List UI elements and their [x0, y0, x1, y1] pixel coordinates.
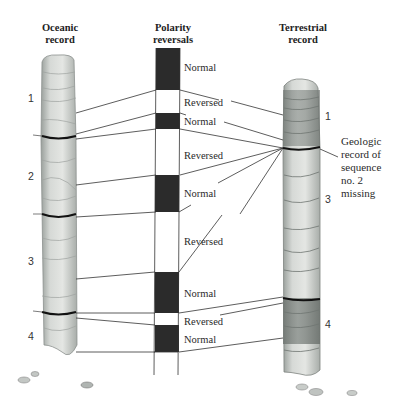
- band-label-reversed-3: Reversed: [184, 236, 223, 248]
- annotation-line: no. 2: [341, 174, 381, 187]
- terrestrial-seq-4: 4: [325, 318, 331, 330]
- band-label-normal-1: Normal: [184, 62, 216, 74]
- terrestrial-seq-3: 3: [325, 193, 331, 205]
- oceanic-seq-4: 4: [28, 330, 34, 342]
- band-label-normal-4: Normal: [184, 288, 216, 300]
- band-label-normal-3: Normal: [184, 188, 216, 200]
- band-label-normal-5: Normal: [184, 334, 216, 346]
- band-label-reversed-2: Reversed: [184, 150, 223, 162]
- band-label-reversed-1: Reversed: [184, 97, 223, 109]
- band-label-normal-2: Normal: [184, 116, 216, 128]
- terrestrial-core: [283, 79, 357, 396]
- missing-record-annotation: Geologic record of sequence no. 2 missin…: [341, 135, 381, 200]
- annotation-line: record of: [341, 148, 381, 161]
- annotation-line: sequence: [341, 161, 381, 174]
- polarity-column: [154, 48, 180, 375]
- oceanic-seq-1: 1: [28, 92, 34, 104]
- band-label-reversed-4: Reversed: [184, 316, 223, 328]
- terrestrial-seq-1: 1: [325, 110, 331, 122]
- annotation-line: missing: [341, 187, 381, 200]
- annotation-line: Geologic: [341, 135, 381, 148]
- oceanic-seq-3: 3: [28, 255, 34, 267]
- oceanic-seq-2: 2: [28, 170, 34, 182]
